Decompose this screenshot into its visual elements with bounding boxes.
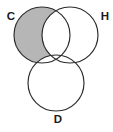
venn-diagram-figure: C H D (0, 0, 113, 132)
set-label-d: D (54, 113, 62, 125)
venn-diagram-canvas: C H D (0, 0, 113, 132)
set-label-h: H (101, 10, 109, 22)
set-label-c: C (7, 10, 15, 22)
